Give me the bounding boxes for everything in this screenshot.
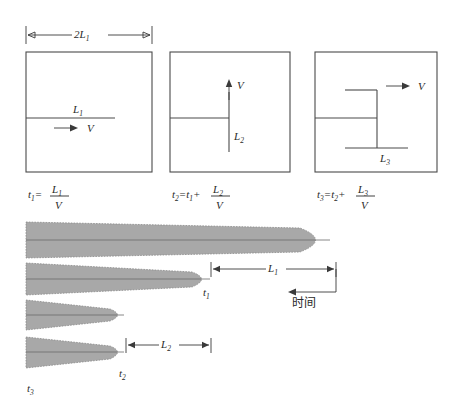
panel-3-velocity-arrow <box>386 83 410 90</box>
leaf-2-tip-label: t1 <box>203 286 210 301</box>
lower-diagram: t1 t2 t3 L1 时间 <box>26 222 336 397</box>
dimension-L1: L1 <box>211 261 336 277</box>
panel-3: V L3 t3=t2+ L3 V <box>315 52 437 211</box>
leaf-4 <box>26 337 124 368</box>
panel-1-box <box>26 52 152 172</box>
panel-1-velocity-arrow <box>54 125 78 132</box>
leaf-1 <box>26 222 330 258</box>
svg-text:t1=: t1= <box>28 188 42 203</box>
panel-3-box <box>315 52 437 172</box>
panel-2-length-label: L2 <box>233 130 244 145</box>
panel-2-velocity-label: V <box>237 79 245 91</box>
svg-text:L1: L1 <box>51 183 62 198</box>
panel-1-formula: t1= L1 V <box>28 183 69 211</box>
svg-text:t3=t2+: t3=t2+ <box>317 188 346 203</box>
svg-text:t2=t1+: t2=t1+ <box>172 188 201 203</box>
bottom-left-label: t3 <box>27 382 34 397</box>
time-axis-arrow <box>288 269 336 295</box>
svg-text:L2: L2 <box>212 183 223 198</box>
svg-text:V: V <box>216 199 224 211</box>
panel-3-velocity-label: V <box>418 80 426 92</box>
time-axis-label: 时间 <box>292 296 316 310</box>
dimension-L2: L2 <box>126 337 211 353</box>
leaf-3 <box>26 300 124 330</box>
svg-text:V: V <box>55 199 63 211</box>
panel-3-length-label: L3 <box>379 152 390 167</box>
crystal-growth-diagram: 2L1 L1 V t1= L1 V <box>0 0 457 414</box>
panel-3-formula: t3=t2+ L3 V <box>317 183 375 211</box>
leaf-4-tip-label: t2 <box>119 367 126 382</box>
panel-1-length-label: L1 <box>72 103 83 118</box>
panel-1-velocity-label: V <box>87 122 95 134</box>
panel-2-box <box>170 52 290 172</box>
svg-text:V: V <box>361 199 369 211</box>
panel-2: V L2 t2=t1+ L2 V <box>170 52 290 211</box>
panel-2-formula: t2=t1+ L2 V <box>172 183 230 211</box>
svg-text:L3: L3 <box>357 183 368 198</box>
leaf-2 <box>26 263 210 295</box>
top-dimension-2L1: 2L1 <box>26 26 152 44</box>
panel-2-velocity-arrow <box>226 79 232 100</box>
panel-1: L1 V t1= L1 V <box>26 52 152 211</box>
